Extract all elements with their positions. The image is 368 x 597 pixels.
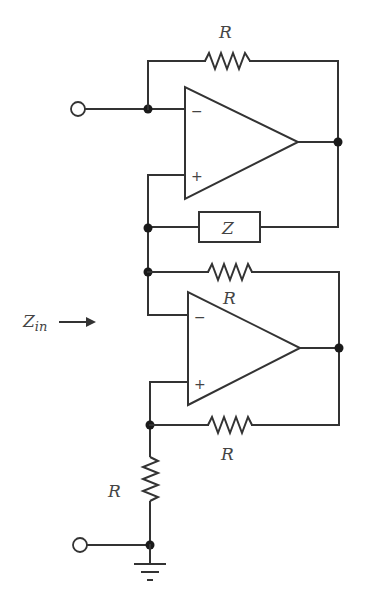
bottom-opamp-noninverting-sign: + xyxy=(194,376,206,392)
ground-icon xyxy=(134,564,166,580)
top-opamp-noninverting-sign: + xyxy=(191,168,203,184)
label-resistor-top: R xyxy=(218,22,232,42)
label-zin: Zin xyxy=(22,311,47,334)
node-top-output xyxy=(334,138,343,147)
bottom-opamp-inverting-sign: − xyxy=(194,309,206,325)
input-terminal-bottom xyxy=(73,538,87,552)
top-opamp-inverting-sign: − xyxy=(191,103,203,119)
label-resistor-middle: R xyxy=(222,288,236,308)
label-resistor-vertical: R xyxy=(107,481,121,501)
top-feedback-wire-left xyxy=(148,61,205,109)
node-z-left xyxy=(144,224,153,233)
middle-vertical-wire xyxy=(148,175,188,315)
resistor-middle xyxy=(208,264,252,280)
label-resistor-bottom: R xyxy=(220,444,234,464)
resistor-top xyxy=(205,53,250,69)
resistor-bottom xyxy=(208,417,252,433)
input-terminal-top xyxy=(71,102,85,116)
zin-arrow-head-icon xyxy=(86,317,96,327)
label-impedance-z: Z xyxy=(221,218,235,238)
circuit-diagram: R − + Z R Zin − + R R xyxy=(0,0,368,597)
node-bottom-output xyxy=(335,344,344,353)
